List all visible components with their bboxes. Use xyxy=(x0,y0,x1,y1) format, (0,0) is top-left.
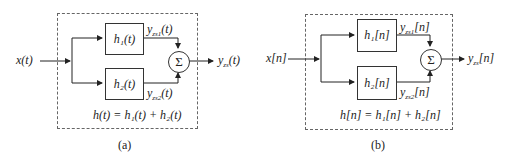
caption: (b) xyxy=(371,138,385,153)
output-label: yzs[n] xyxy=(468,51,494,67)
impulse-response-equation: h(t) = h₁(t) + h₂(t) xyxy=(93,108,182,123)
panel-b-discrete: x[n] h₁[n] h₂[n] yzs1[n] yzs2[n] Σ yzs[n… xyxy=(254,0,509,160)
block-h2: h₂[n] xyxy=(357,66,397,100)
branch2-output-label: yzs2[n] xyxy=(400,85,430,101)
impulse-response-equation: h[n] = h₁[n] + h₂[n] xyxy=(340,108,441,123)
block-h1: h₁(t) xyxy=(105,23,144,55)
branch2-output-label: yzs2(t) xyxy=(147,86,173,102)
branch1-output-label: yzs1[n] xyxy=(400,20,430,36)
block-h2: h₂(t) xyxy=(105,68,144,100)
output-label: yzs(t) xyxy=(218,53,240,69)
input-label: x(t) xyxy=(16,53,33,68)
caption: (a) xyxy=(118,138,131,153)
summing-junction: Σ xyxy=(168,51,190,73)
branch1-output-label: yzs1(t) xyxy=(147,22,173,38)
panel-a-continuous: x(t) h₁(t) h₂(t) yzs1(t) yzs2(t) Σ yzs(t… xyxy=(0,0,255,160)
summing-junction: Σ xyxy=(420,49,442,71)
input-label: x[n] xyxy=(266,51,287,66)
block-h1: h₁[n] xyxy=(357,19,397,52)
